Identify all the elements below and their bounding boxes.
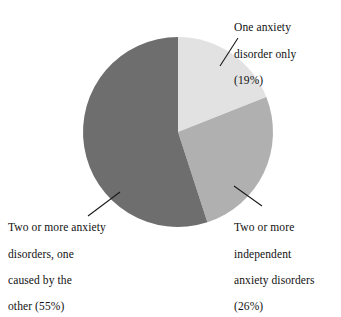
callout-line-3: anxiety disorders (234, 274, 340, 287)
callout-line-4: (26%) (234, 300, 340, 313)
callout-line-2: independent (234, 248, 340, 261)
callout-label-two-or-more-independent: Two or more independent anxiety disorder… (234, 208, 340, 317)
callout-label-two-or-more-one-caused-by-other: Two or more anxiety disorders, one cause… (8, 208, 132, 317)
callout-line-1: One anxiety (234, 21, 338, 34)
callout-line-4: other (55%) (8, 300, 132, 313)
callout-line-1: Two or more (234, 221, 340, 234)
callout-line-3: (19%) (234, 74, 338, 87)
callout-line-1: Two or more anxiety (8, 221, 132, 234)
callout-line-2: disorders, one (8, 248, 132, 261)
callout-line-3: caused by the (8, 274, 132, 287)
callout-line-2: disorder only (234, 48, 338, 61)
callout-label-one-anxiety-disorder-only: One anxiety disorder only (19%) (234, 8, 338, 100)
